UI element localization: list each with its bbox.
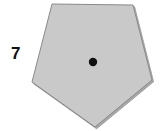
- side-length-label: 7: [11, 45, 20, 62]
- figure-container: 7: [0, 0, 165, 131]
- center-dot: [89, 58, 97, 66]
- pentagon-diagram-svg: [0, 0, 165, 131]
